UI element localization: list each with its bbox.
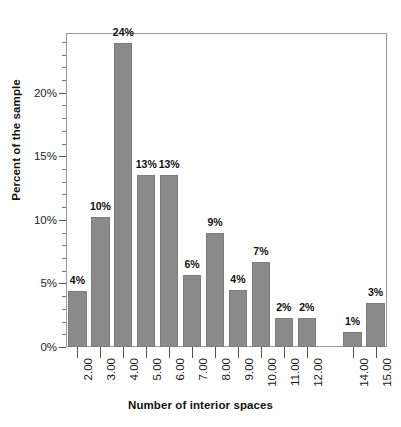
bar bbox=[137, 175, 155, 347]
x-tick bbox=[215, 347, 216, 358]
x-tick bbox=[146, 347, 147, 358]
bar bbox=[343, 332, 361, 347]
x-tick bbox=[261, 347, 262, 358]
x-tick bbox=[169, 347, 170, 358]
x-tick bbox=[307, 347, 308, 358]
y-tick-label: 0% bbox=[40, 341, 57, 353]
x-tick-label: 6.00 bbox=[174, 358, 186, 380]
y-axis-title: Percent of the sample bbox=[10, 40, 22, 240]
x-tick bbox=[192, 347, 193, 358]
x-tick-label: 3.00 bbox=[105, 358, 117, 380]
x-tick bbox=[353, 347, 354, 358]
x-tick-label: 15.00 bbox=[381, 358, 393, 387]
y-tick-label: 5% bbox=[40, 277, 57, 289]
x-tick bbox=[123, 347, 124, 358]
y-tick-major bbox=[59, 93, 66, 94]
x-tick-label: 2.00 bbox=[82, 358, 94, 380]
y-tick-major bbox=[59, 156, 66, 157]
bar bbox=[160, 175, 178, 347]
y-tick-major bbox=[59, 347, 66, 348]
x-tick bbox=[100, 347, 101, 358]
x-tick-label: 11.00 bbox=[289, 358, 301, 386]
x-axis-title: Number of interior spaces bbox=[0, 399, 401, 411]
bar bbox=[275, 318, 293, 347]
bar bbox=[68, 291, 86, 347]
bar bbox=[91, 217, 109, 347]
x-tick-label: 10.00 bbox=[266, 358, 278, 387]
x-tick-label: 12.00 bbox=[312, 358, 324, 387]
x-tick-label: 8.00 bbox=[220, 358, 232, 380]
bar bbox=[206, 233, 224, 347]
y-tick-label: 10% bbox=[34, 214, 57, 226]
y-tick-major bbox=[59, 283, 66, 284]
bar bbox=[298, 318, 316, 347]
x-tick bbox=[376, 347, 377, 358]
x-tick bbox=[238, 347, 239, 358]
plot-area bbox=[66, 33, 387, 347]
x-tick-label: 5.00 bbox=[151, 358, 163, 380]
bar bbox=[366, 303, 384, 347]
x-tick bbox=[284, 347, 285, 358]
bar-chart-figure: 0%5%10%15%20% 2.003.004.005.006.007.008.… bbox=[0, 0, 401, 427]
y-tick-major bbox=[59, 220, 66, 221]
x-axis-tick-labels: 2.003.004.005.006.007.008.009.0010.0011.… bbox=[66, 358, 387, 398]
x-tick-label: 7.00 bbox=[197, 358, 209, 380]
bar bbox=[183, 275, 201, 347]
y-tick-label: 15% bbox=[34, 150, 57, 162]
x-tick-label: 4.00 bbox=[128, 358, 140, 380]
x-tick-label: 14.00 bbox=[358, 358, 370, 387]
y-tick-label: 20% bbox=[34, 87, 57, 99]
bar bbox=[252, 262, 270, 347]
bar bbox=[229, 290, 247, 347]
bar bbox=[114, 43, 132, 347]
x-tick-label: 9.00 bbox=[243, 358, 255, 380]
x-tick bbox=[77, 347, 78, 358]
